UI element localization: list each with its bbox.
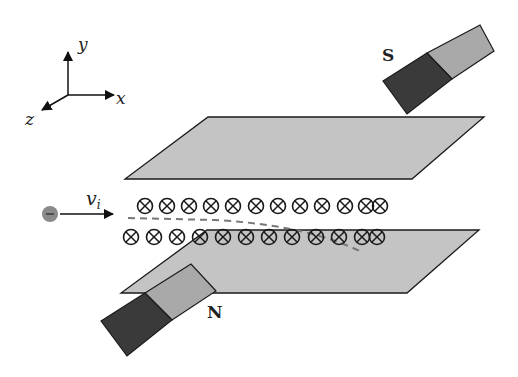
charged-particle: vi (42, 187, 113, 222)
field-into-page-icon (160, 199, 175, 214)
z-axis (42, 95, 68, 110)
field-into-page-icon (204, 199, 219, 214)
field-into-page-icon (124, 230, 139, 245)
upper-plate (125, 117, 484, 179)
field-into-page-icon (138, 199, 153, 214)
field-into-page-icon (170, 230, 185, 245)
magnetic-deflection-diagram: y x z S (0, 0, 518, 377)
field-into-page-icon (293, 199, 308, 214)
field-into-page-icon (359, 199, 374, 214)
field-into-page-icon (338, 199, 353, 214)
velocity-label: vi (86, 187, 101, 212)
field-into-page-icon (315, 199, 330, 214)
coordinate-axes: y x z (24, 34, 126, 129)
field-into-page-icon (249, 199, 264, 214)
field-into-page-icon (271, 199, 286, 214)
field-row-top (138, 199, 388, 214)
x-axis-label: x (116, 88, 126, 108)
y-axis-label: y (77, 34, 88, 54)
field-into-page-icon (182, 199, 197, 214)
magnet-south: S (382, 25, 494, 114)
field-into-page-icon (226, 199, 241, 214)
field-into-page-icon (373, 199, 388, 214)
south-pole-label: S (382, 45, 394, 65)
z-axis-label: z (24, 109, 35, 129)
field-into-page-icon (147, 230, 162, 245)
north-pole-label: N (207, 302, 223, 322)
